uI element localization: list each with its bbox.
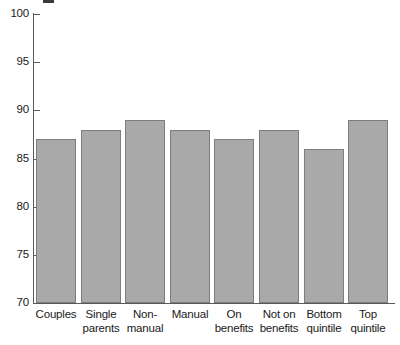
cropped-title-remnant — [43, 0, 54, 3]
y-axis-tick-label-text: 75 — [3, 249, 29, 261]
y-axis-tick-label: 90 — [0, 104, 29, 116]
y-axis-tick-label: 100 — [0, 8, 29, 20]
bar — [36, 139, 76, 303]
x-axis-category-label-line: On — [210, 307, 258, 321]
y-axis-tick — [33, 62, 40, 63]
x-axis-category-label-line: Manual — [166, 307, 214, 321]
x-axis-category-label: Topquintile — [344, 307, 392, 335]
y-axis-tick-label-text: 80 — [3, 201, 29, 213]
y-axis-tick-label: 85 — [0, 153, 29, 165]
y-axis-tick-label-text: 95 — [3, 56, 29, 68]
y-axis-tick — [33, 303, 40, 304]
x-axis-category-label-line: parents — [77, 321, 125, 335]
bar-chart-figure: 100959085807570 CouplesSingleparentsNon-… — [0, 0, 400, 345]
y-axis-tick-label-text: 85 — [3, 153, 29, 165]
x-axis-category-label: Non-manual — [121, 307, 169, 335]
bar — [259, 130, 299, 303]
x-axis-category-label-line: Couples — [32, 307, 80, 321]
bar — [304, 149, 344, 303]
y-axis-tick-label-text: 90 — [3, 104, 29, 116]
y-axis-tick — [33, 14, 40, 15]
x-axis-category-label-line: quintile — [300, 321, 348, 335]
y-axis-tick-label: 75 — [0, 249, 29, 261]
x-axis-category-label-line: Bottom — [300, 307, 348, 321]
bar — [214, 139, 254, 303]
x-axis-category-label-line: quintile — [344, 321, 392, 335]
x-axis-category-label-line: Single — [77, 307, 125, 321]
y-axis-tick-label-text: 70 — [3, 297, 29, 309]
x-axis-category-label: Not onbenefits — [255, 307, 303, 335]
x-axis-category-label: Bottomquintile — [300, 307, 348, 335]
x-axis-category-label-line: Not on — [255, 307, 303, 321]
y-axis-tick — [33, 110, 40, 111]
x-axis-category-label: Singleparents — [77, 307, 125, 335]
x-axis-category-label: Couples — [32, 307, 80, 321]
bar — [348, 120, 388, 303]
x-axis-category-label-line: benefits — [210, 321, 258, 335]
y-axis-tick-label: 70 — [0, 297, 29, 309]
x-axis-category-label-line: manual — [121, 321, 169, 335]
y-axis-tick-label-text: 100 — [3, 8, 29, 20]
x-axis-category-label: Onbenefits — [210, 307, 258, 335]
y-axis-tick-label: 95 — [0, 56, 29, 68]
bar — [125, 120, 165, 303]
bar — [170, 130, 210, 303]
y-axis-tick-label: 80 — [0, 201, 29, 213]
x-axis-category-label-line: Non- — [121, 307, 169, 321]
x-axis-category-label-line: Top — [344, 307, 392, 321]
x-axis-category-label: Manual — [166, 307, 214, 321]
x-axis-line — [33, 303, 395, 304]
bar — [81, 130, 121, 303]
x-axis-category-label-line: benefits — [255, 321, 303, 335]
